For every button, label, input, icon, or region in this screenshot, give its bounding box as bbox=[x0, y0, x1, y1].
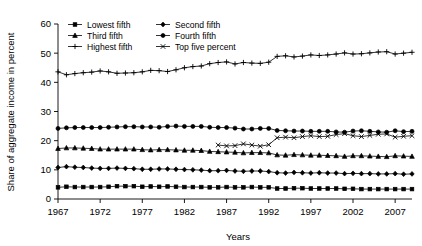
y-axis-title-text: Share of aggregate income in percent bbox=[5, 32, 16, 191]
legend-label: Lowest fifth bbox=[87, 20, 131, 30]
series-lowest-fifth bbox=[56, 184, 414, 191]
legend-item-second-fifth[interactable]: Second fifth bbox=[156, 20, 221, 30]
x-axis: 196719721977198219871992199720022007 bbox=[47, 199, 412, 217]
legend-item-third-fifth[interactable]: Third fifth bbox=[68, 31, 123, 41]
x-axis-tick-label: 1987 bbox=[216, 206, 237, 217]
x-axis-tick-label: 1992 bbox=[258, 206, 279, 217]
legend-item-lowest-fifth[interactable]: Lowest fifth bbox=[68, 20, 131, 30]
x-axis-tick-label: 1997 bbox=[300, 206, 321, 217]
series-third-fifth bbox=[56, 145, 415, 158]
series-second-fifth bbox=[56, 164, 414, 176]
series-top-five-percent bbox=[216, 131, 414, 148]
y-axis-tick-label: 0 bbox=[46, 193, 51, 204]
legend-item-top-five-percent[interactable]: Top five percent bbox=[156, 42, 236, 52]
x-axis-tick-label: 2007 bbox=[385, 206, 406, 217]
legend-label: Highest fifth bbox=[87, 42, 133, 52]
x-axis-title: Years bbox=[226, 231, 250, 242]
x-axis-title-text: Years bbox=[226, 231, 250, 242]
x-axis-tick-label: 1982 bbox=[174, 206, 195, 217]
y-axis-tick-label: 20 bbox=[40, 135, 51, 146]
y-axis-title: Share of aggregate income in percent bbox=[5, 32, 16, 191]
legend-label: Fourth fifth bbox=[175, 31, 216, 41]
y-axis-tick-label: 40 bbox=[40, 77, 51, 88]
legend-label: Third fifth bbox=[87, 31, 123, 41]
line-chart: Share of aggregate income in percent Yea… bbox=[0, 0, 422, 246]
legend-item-fourth-fifth[interactable]: Fourth fifth bbox=[156, 31, 216, 41]
x-axis-tick-label: 1972 bbox=[90, 206, 111, 217]
series-path bbox=[218, 134, 412, 147]
y-axis: 0102030405060 bbox=[40, 18, 58, 204]
legend-item-highest-fifth[interactable]: Highest fifth bbox=[68, 42, 133, 52]
y-axis-tick-label: 10 bbox=[40, 164, 51, 175]
y-axis-tick-label: 30 bbox=[40, 106, 51, 117]
legend-label: Top five percent bbox=[175, 42, 236, 52]
series-fourth-fifth bbox=[56, 124, 414, 134]
chart-legend: Lowest fifthSecond fifthThird fifthFourt… bbox=[68, 20, 236, 52]
x-axis-tick-label: 2002 bbox=[342, 206, 363, 217]
series-layer bbox=[55, 49, 414, 191]
y-axis-tick-label: 60 bbox=[40, 18, 51, 29]
x-axis-tick-label: 1967 bbox=[47, 206, 68, 217]
x-axis-tick-label: 1977 bbox=[132, 206, 153, 217]
series-highest-fifth bbox=[55, 49, 414, 77]
chart-container: Share of aggregate income in percent Yea… bbox=[0, 0, 422, 246]
legend-label: Second fifth bbox=[175, 20, 221, 30]
y-axis-tick-label: 50 bbox=[40, 48, 51, 59]
